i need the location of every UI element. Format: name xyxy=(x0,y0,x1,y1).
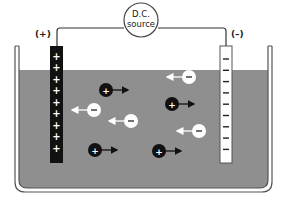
plus-sign: + xyxy=(52,51,60,62)
plus-sign: + xyxy=(52,131,60,142)
anode-wire xyxy=(57,28,124,46)
anode-polarity-label: (+) xyxy=(35,29,51,39)
plus-sign: + xyxy=(102,86,110,96)
anode-plus-signs: +++++++++ xyxy=(52,51,60,154)
plus-sign: + xyxy=(52,108,60,119)
dc-source-label: D.C. source xyxy=(124,9,158,29)
plus-sign: + xyxy=(168,100,176,110)
plus-sign: + xyxy=(52,97,60,108)
plus-sign: + xyxy=(52,62,60,73)
plus-sign: + xyxy=(52,74,60,85)
plus-sign: + xyxy=(91,146,99,156)
cathode-wire xyxy=(158,28,226,46)
plus-sign: + xyxy=(52,143,60,154)
plus-sign: + xyxy=(52,120,60,131)
electrolysis-diagram: +++++++++ ++++ D.C. source (+) (–) xyxy=(0,0,282,201)
dc-source-line1: D.C. xyxy=(124,9,158,19)
dc-source-line2: source xyxy=(124,19,158,29)
plus-sign: + xyxy=(155,147,163,157)
cathode-polarity-label: (–) xyxy=(231,29,244,39)
plus-sign: + xyxy=(52,85,60,96)
